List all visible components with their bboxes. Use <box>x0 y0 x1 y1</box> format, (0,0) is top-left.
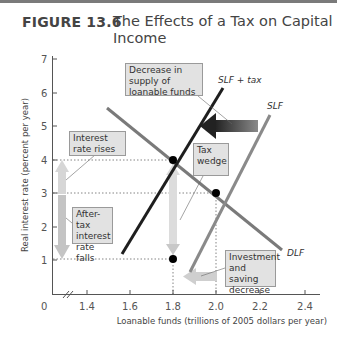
after-tax-falls-label: After-tax interest rate falls <box>72 207 113 244</box>
svg-text:1.8: 1.8 <box>165 301 181 312</box>
svg-text:1.6: 1.6 <box>122 301 138 312</box>
supply-decrease-label: Decrease in supply of loanable funds <box>125 63 203 96</box>
svg-text:2.2: 2.2 <box>252 301 268 312</box>
slf-label: SLF <box>267 101 284 111</box>
equilibrium-point-tax <box>169 156 177 164</box>
slf-tax-label: SLF + tax <box>218 75 262 85</box>
supply-shift-arrow <box>200 113 258 139</box>
svg-text:1: 1 <box>41 255 47 266</box>
interest-rise-arrow <box>55 160 69 194</box>
equilibrium-point-after-tax <box>169 255 177 263</box>
svg-text:2.4: 2.4 <box>297 301 313 312</box>
y-tick-labels: 7 6 5 4 3 2 1 <box>41 54 47 266</box>
svg-text:5: 5 <box>41 121 47 132</box>
equilibrium-point-original <box>212 189 220 197</box>
svg-text:6: 6 <box>41 88 47 99</box>
tax-wedge-label: Tax wedge <box>193 143 229 176</box>
slf-curve <box>190 115 270 272</box>
svg-text:3: 3 <box>41 188 47 199</box>
origin-label: 0 <box>41 301 47 312</box>
chart: 7 6 5 4 3 2 1 0 1.4 1.6 1.8 2.0 2.2 2.4 … <box>0 0 337 338</box>
svg-text:4: 4 <box>41 155 47 166</box>
investment-decrease-arrow <box>183 268 217 285</box>
interest-rises-label: Interest rate rises <box>69 131 126 156</box>
svg-text:2.0: 2.0 <box>208 301 224 312</box>
dlf-label: DLF <box>287 248 305 258</box>
svg-text:1.4: 1.4 <box>79 301 95 312</box>
svg-text:7: 7 <box>41 54 47 65</box>
x-tick-labels: 1.4 1.6 1.8 2.0 2.2 2.4 <box>79 301 313 312</box>
y-axis-label: Real interest rate (percent per year) <box>20 98 30 252</box>
x-axis-label: Loanable funds (trillions of 2005 dollar… <box>117 316 327 326</box>
svg-text:2: 2 <box>41 222 47 233</box>
investment-decrease-label: Investment and saving decrease <box>225 250 276 287</box>
